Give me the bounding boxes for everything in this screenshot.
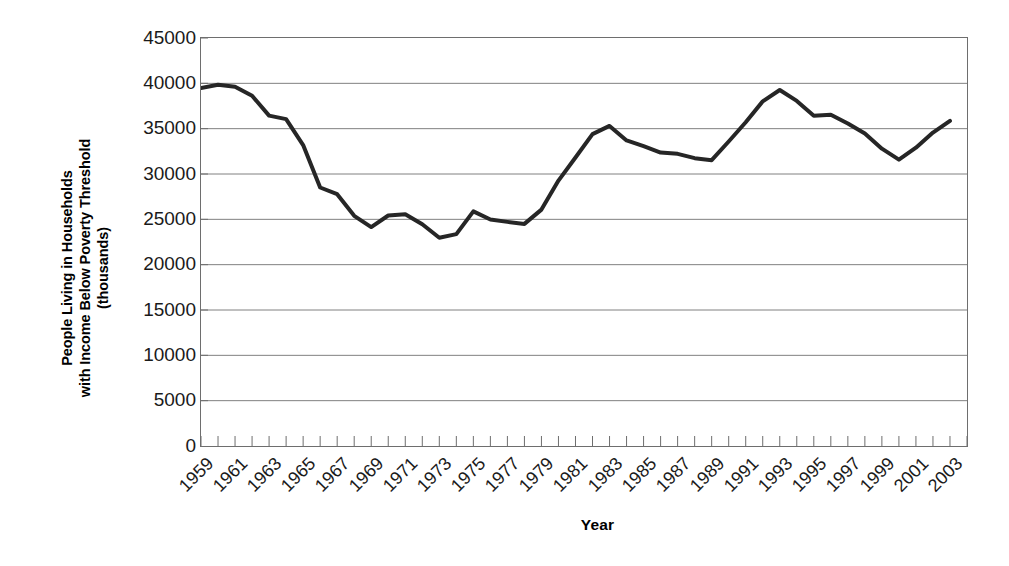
x-axis-title: Year	[0, 516, 1009, 534]
poverty-line-chart: People Living in Households with Income …	[0, 0, 1009, 566]
x-axis-title-text: Year	[581, 516, 615, 533]
x-axis-tick-labels: 1959196119631965196719691971197319751977…	[0, 0, 1009, 566]
